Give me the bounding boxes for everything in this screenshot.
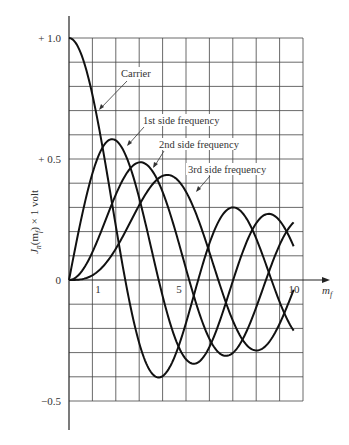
x-tick-10: 10 [289,283,301,295]
x-axis-label: mf [322,284,334,299]
y-tick-neg-0.5: −0.5 [41,395,61,407]
annotation-3rd: 3rd side frequency [188,164,267,175]
curve-3rd-side-frequency [69,175,294,351]
bessel-chart: + 1.0 + 0.5 0 −0.5 1 5 10 mf Jn(mf) × 1 … [0,0,349,445]
y-tick-0.5: + 0.5 [38,153,61,165]
x-tick-1: 1 [95,283,101,295]
y-axis-label: Jn(mf) × 1 volt [28,190,43,254]
arrow-carrier [100,81,127,109]
annotation-carrier: Carrier [121,68,151,79]
grid [69,38,303,401]
curve-2nd-side-frequency [69,162,294,356]
annotation-1st: 1st side frequency [143,115,220,126]
x-tick-5: 5 [176,283,182,295]
annotation-2nd: 2nd side frequency [159,139,240,150]
y-tick-1: + 1.0 [38,32,61,44]
x-axis-arrow-icon [322,277,330,283]
y-tick-0: 0 [56,274,62,286]
